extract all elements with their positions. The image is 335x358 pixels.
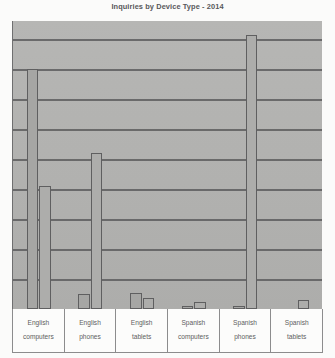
- category-label-line: phones: [79, 334, 101, 341]
- category-label-line: English: [28, 320, 50, 327]
- bar-group: [65, 21, 117, 309]
- bar: [91, 153, 103, 309]
- category-label-line: English: [131, 320, 153, 327]
- bar-group: [116, 21, 168, 309]
- bar-group: [271, 21, 322, 309]
- category-label-line: English: [79, 320, 101, 327]
- bar-chart: Inquiries by Device Type - 2014 Englishc…: [0, 0, 335, 358]
- bar: [27, 69, 39, 309]
- bar: [78, 294, 90, 309]
- category-label-band: EnglishcomputersEnglishphonesEnglishtabl…: [12, 309, 323, 353]
- bar: [39, 186, 51, 309]
- bar: [246, 35, 258, 310]
- category-label-line: Spanish: [233, 320, 257, 327]
- bar-group: [13, 21, 65, 309]
- category-label-english-computers: Englishcomputers: [13, 309, 65, 352]
- category-label-spanish-tablets: Spanishtablets: [271, 309, 322, 352]
- category-label-line: computers: [178, 334, 209, 341]
- category-label-line: phones: [234, 334, 256, 341]
- category-label-line: computers: [23, 334, 54, 341]
- bar: [130, 293, 142, 310]
- bar-group: [220, 21, 272, 309]
- category-label-spanish-phones: Spanishphones: [220, 309, 272, 352]
- category-label-english-phones: Englishphones: [65, 309, 117, 352]
- chart-title: Inquiries by Device Type - 2014: [0, 2, 335, 11]
- category-label-line: tablets: [287, 334, 306, 341]
- category-label-line: Spanish: [285, 320, 309, 327]
- category-label-spanish-computers: Spanishcomputers: [168, 309, 220, 352]
- plot-area: [12, 21, 322, 309]
- category-label-line: tablets: [132, 334, 151, 341]
- bar: [143, 298, 155, 309]
- bar-group: [168, 21, 220, 309]
- category-label-line: Spanish: [181, 320, 205, 327]
- category-label-english-tablets: Englishtablets: [116, 309, 168, 352]
